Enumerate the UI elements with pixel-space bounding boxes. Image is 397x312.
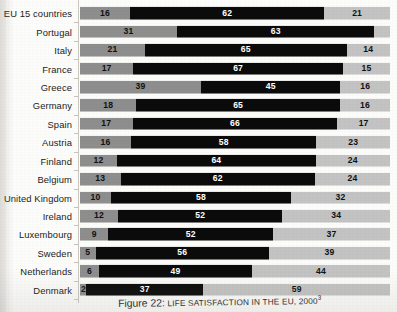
segment-value: 58 — [131, 138, 316, 147]
bar-segment-1: 9 — [80, 228, 108, 241]
bar-segment-3: 24 — [315, 173, 390, 186]
bar-segment-3: 15 — [343, 62, 390, 75]
segment-value: 31 — [80, 27, 177, 36]
bar-segment-3: 39 — [269, 247, 390, 260]
chart-row: Greece394516 — [0, 78, 397, 96]
chart-row: Germany186516 — [0, 96, 397, 114]
bar-segment-3: 17 — [337, 118, 390, 131]
category-label: Greece — [0, 81, 72, 92]
segment-value: 34 — [282, 212, 390, 221]
stacked-bar: 176617 — [80, 118, 390, 131]
segment-value: 23 — [316, 138, 390, 147]
bar-segment-3: 5 — [374, 25, 390, 38]
bar-segment-3: 21 — [324, 7, 390, 20]
segment-value: 44 — [252, 267, 390, 276]
segment-value: 32 — [291, 193, 390, 202]
segment-value: 62 — [121, 175, 315, 184]
axis-tick — [74, 262, 79, 263]
stacked-bar: 165823 — [80, 136, 390, 149]
chart-row: Portugal31635 — [0, 22, 397, 40]
bar-segment-2: 45 — [201, 81, 341, 94]
segment-value: 65 — [145, 46, 347, 55]
segment-value: 13 — [80, 175, 121, 184]
bar-segment-2: 58 — [131, 136, 316, 149]
stacked-bar: 186516 — [80, 99, 390, 112]
segment-value: 21 — [324, 9, 390, 18]
figure-life-satisfaction-eu: EU 15 countries166221Portugal31635Italy2… — [0, 0, 397, 312]
segment-value: 21 — [80, 46, 145, 55]
segment-value: 15 — [343, 64, 390, 73]
axis-tick — [74, 299, 79, 300]
chart-row: Finland126424 — [0, 152, 397, 170]
segment-value: 62 — [130, 9, 324, 18]
bar-segment-3: 34 — [282, 210, 390, 223]
segment-value: 6 — [80, 267, 99, 276]
segment-value: 10 — [80, 193, 111, 202]
chart-row: United Kingdom105832 — [0, 188, 397, 206]
bar-segment-1: 6 — [80, 265, 99, 278]
segment-value: 67 — [133, 64, 343, 73]
segment-value: 12 — [80, 156, 117, 165]
bar-segment-2: 66 — [133, 118, 338, 131]
segment-value: 66 — [133, 120, 338, 129]
bar-segment-1: 31 — [80, 25, 177, 38]
stacked-bar: 64944 — [80, 265, 390, 278]
axis-tick — [74, 59, 79, 60]
bar-segment-1: 39 — [80, 81, 201, 94]
category-label: Ireland — [0, 211, 72, 222]
segment-value: 65 — [136, 101, 340, 110]
segment-value: 18 — [80, 101, 136, 110]
category-label: France — [0, 63, 72, 74]
segment-value: 39 — [269, 249, 390, 258]
category-label: United Kingdom — [0, 192, 72, 203]
segment-value: 9 — [80, 230, 108, 239]
stacked-bar: 105832 — [80, 191, 390, 204]
axis-tick — [74, 244, 79, 245]
bar-segment-3: 23 — [316, 136, 390, 149]
axis-tick — [74, 281, 79, 282]
segment-value: 5 — [80, 249, 96, 258]
axis-tick — [74, 152, 79, 153]
chart-row: France176715 — [0, 59, 397, 77]
segment-value: 12 — [80, 212, 118, 221]
axis-tick — [74, 189, 79, 190]
bar-segment-1: 17 — [80, 118, 133, 131]
category-label: Sweden — [0, 247, 72, 258]
chart-row: Italy216514 — [0, 41, 397, 59]
bar-segment-1: 12 — [80, 154, 117, 167]
segment-value: 56 — [96, 249, 270, 258]
category-label: Portugal — [0, 26, 72, 37]
segment-value: 14 — [347, 46, 390, 55]
stacked-bar: 31635 — [80, 25, 390, 38]
bar-segment-3: 44 — [252, 265, 390, 278]
chart-row: EU 15 countries166221 — [0, 4, 397, 22]
bar-segment-3: 16 — [340, 81, 390, 94]
stacked-bar: 126424 — [80, 154, 390, 167]
bar-segment-2: 37 — [86, 283, 203, 296]
segment-value: 16 — [340, 83, 390, 92]
axis-tick — [74, 207, 79, 208]
bar-segment-1: 21 — [80, 44, 145, 57]
bar-segment-1: 16 — [80, 136, 131, 149]
stacked-bar: 394516 — [80, 81, 390, 94]
segment-value: 24 — [316, 156, 390, 165]
bar-segment-3: 32 — [291, 191, 390, 204]
segment-value: 17 — [80, 120, 133, 129]
bar-segment-2: 49 — [99, 265, 252, 278]
stacked-bar: 95237 — [80, 228, 390, 241]
segment-value: 2 — [81, 285, 86, 294]
figure-number: Figure 22: — [118, 297, 165, 309]
bar-segment-1: 13 — [80, 173, 121, 186]
chart-row: Austria165823 — [0, 133, 397, 151]
stacked-bar: 136224 — [80, 173, 390, 186]
bar-segment-2: 52 — [118, 210, 282, 223]
axis-tick — [74, 41, 79, 42]
segment-value: 24 — [315, 175, 390, 184]
category-label: Spain — [0, 118, 72, 129]
category-label: Italy — [0, 45, 72, 56]
bar-segment-1: 10 — [80, 191, 111, 204]
axis-tick — [74, 78, 79, 79]
segment-value: 17 — [337, 120, 390, 129]
segment-value: 37 — [273, 230, 390, 239]
stacked-bar: 125234 — [80, 210, 390, 223]
